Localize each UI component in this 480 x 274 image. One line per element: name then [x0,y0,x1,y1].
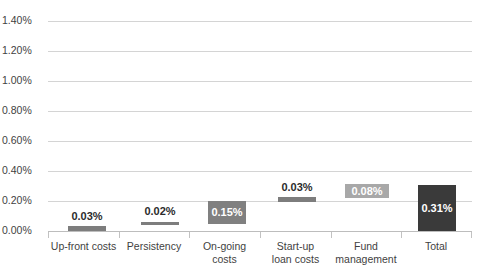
x-axis-tick [260,232,261,238]
x-axis-label-fund-management: Fund management [331,240,401,265]
gridline-0.80 [48,111,472,112]
x-axis-tick [331,232,332,238]
bar-label-on-going-costs: 0.15% [208,207,246,218]
gridline-1.40 [48,21,472,22]
x-axis-tick [471,232,472,238]
gridline-0.60 [48,141,472,142]
bar-label-start-up-loan-costs: 0.03% [268,182,326,193]
y-axis-tick-label: 1.40% [2,14,46,26]
bar-label-up-front-costs: 0.03% [58,211,116,222]
bar-persistency[interactable] [141,222,179,225]
y-axis-tick-label: 0.00% [2,224,46,236]
y-axis-tick-label: 1.00% [2,74,46,86]
gridline-1.20 [48,51,472,52]
y-axis-tick-label: 0.60% [2,134,46,146]
x-axis-tick [119,232,120,238]
bar-label-persistency: 0.02% [131,206,189,217]
x-axis-label-total: Total [401,240,471,253]
gridline-0.40 [48,171,472,172]
gridline-1.00 [48,81,472,82]
bar-label-total: 0.31% [415,203,459,214]
y-axis-tick-label: 0.80% [2,104,46,116]
x-axis-tick [189,232,190,238]
x-axis-tick [401,232,402,238]
waterfall-chart: 1.40% 1.20% 1.00% 0.80% 0.60% 0.40% 0.20… [0,0,480,274]
bar-start-up-loan-costs[interactable] [278,197,316,202]
y-axis-tick-label: 0.20% [2,194,46,206]
x-axis-label-start-up-loan-costs: Start-up loan costs [260,240,331,265]
x-axis-label-persistency: Persistency [119,240,189,253]
y-axis-tick-label: 1.20% [2,44,46,56]
x-axis-label-up-front-costs: Up-front costs [48,240,119,253]
gridline-0.20 [48,201,472,202]
bar-label-fund-management: 0.08% [345,186,389,197]
x-axis-tick [48,232,49,238]
y-axis-tick-label: 0.40% [2,164,46,176]
x-axis-label-on-going-costs: On-going costs [189,240,260,265]
